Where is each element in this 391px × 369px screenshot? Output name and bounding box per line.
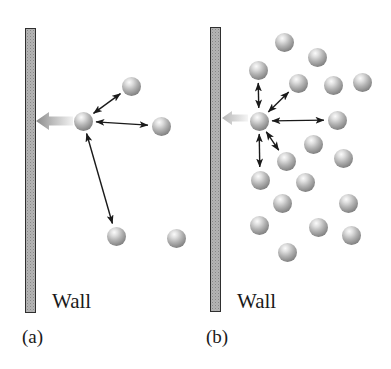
wall-label-b: Wall [237,289,276,314]
molecule [309,218,328,237]
net-force-arrow-b [222,111,248,125]
panel-caption-a: (a) [22,326,43,348]
molecule [289,74,308,93]
attraction-arrow-a [96,122,148,125]
molecule [251,171,270,190]
wall-b [210,27,221,312]
central-molecule-a [74,112,93,131]
attraction-arrow-a [94,94,121,114]
molecule [122,77,141,96]
molecule [339,194,358,213]
molecule [278,243,297,262]
molecule [277,152,296,171]
attraction-arrow-b [266,132,278,150]
molecule [152,117,171,136]
molecule [342,226,361,245]
figure: Wall Wall (a) (b) [0,0,391,369]
central-molecule-b [250,112,269,131]
attraction-arrow-b [259,134,260,167]
molecule [296,173,315,192]
attraction-arrow-b [268,92,288,112]
molecule [304,135,323,154]
molecule [249,61,268,80]
net-force-arrow-a [36,112,73,130]
molecule [324,76,343,95]
molecule [167,229,186,248]
molecule [308,48,327,67]
molecule [250,216,269,235]
panel-caption-b: (b) [206,326,228,348]
molecule [353,73,372,92]
attraction-arrow-a [87,133,113,223]
wall-a [25,28,36,313]
molecule [334,149,353,168]
attraction-arrow-b [272,120,324,121]
molecule [273,194,292,213]
wall-label-a: Wall [52,289,91,314]
molecule [275,33,294,52]
molecule [328,111,347,130]
molecule [107,227,126,246]
